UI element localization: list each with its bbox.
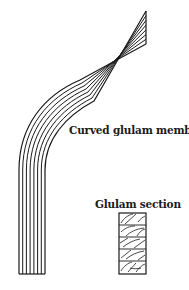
glulam-section (119, 213, 146, 274)
glulam-diagram (0, 0, 189, 290)
glulam-section-label: Glulam section (95, 198, 181, 210)
wood-grain-marks (120, 214, 145, 272)
curved-glulam-member-label: Curved glulam member (69, 124, 189, 136)
curved-glulam-member (19, 11, 146, 274)
